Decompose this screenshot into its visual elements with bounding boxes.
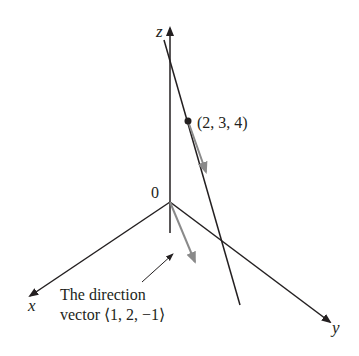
3d-line-diagram: z x y 0 (2, 3, 4) The direction vector ⟨…	[0, 0, 359, 356]
x-axis	[30, 202, 170, 296]
point-marker	[185, 118, 192, 125]
origin-label: 0	[151, 184, 159, 201]
z-axis-label: z	[155, 22, 163, 41]
direction-caption-line1: The direction	[60, 286, 146, 303]
point-label: (2, 3, 4)	[197, 114, 248, 132]
y-axis-label: y	[330, 318, 340, 337]
caption-pointer-arrow	[142, 254, 173, 282]
line-through-point	[164, 40, 240, 305]
direction-caption-line2: vector ⟨1, 2, −1⟩	[60, 306, 165, 323]
x-axis-label: x	[27, 296, 36, 315]
